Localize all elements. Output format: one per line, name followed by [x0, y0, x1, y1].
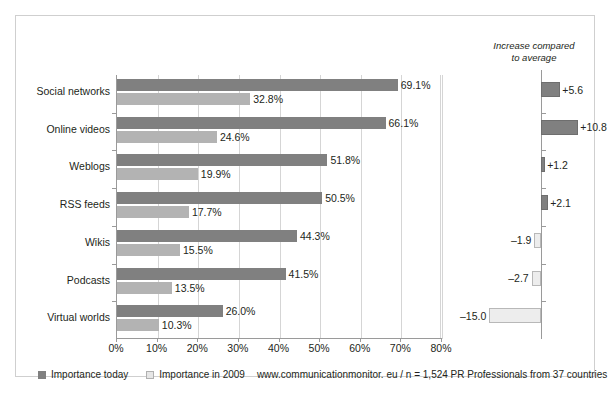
category-row: Social networks69.1%32.8%: [117, 78, 440, 107]
bar-value-label: 69.1%: [401, 80, 431, 91]
bar-value-label: 13.5%: [175, 282, 205, 293]
deviation-separator: [541, 188, 546, 189]
secondary-panel-title: Increase compared to average: [479, 40, 589, 64]
x-axis-tick-mark: [157, 338, 158, 342]
deviation-separator: [541, 226, 546, 227]
bar-value-label: 24.6%: [220, 131, 250, 142]
deviation-bar: +1.2: [541, 157, 545, 172]
category-label: Virtual worlds: [47, 312, 117, 323]
category-separator: [112, 150, 117, 151]
category-label: RSS feeds: [60, 199, 117, 210]
bar-value-label: 26.0%: [226, 306, 256, 317]
bar-value-label: 51.8%: [330, 155, 360, 166]
x-axis-tick-mark: [400, 338, 401, 342]
deviation-bar: –2.7: [532, 271, 541, 286]
bar-previous: 19.9%: [117, 168, 198, 180]
bar-today: 26.0%: [117, 305, 223, 317]
x-axis-tick-mark: [319, 338, 320, 342]
gridline: [442, 75, 443, 339]
legend-swatch-previous: [146, 371, 154, 379]
bar-today: 41.5%: [117, 268, 286, 280]
bar-value-label: 66.1%: [389, 117, 419, 128]
legend-label-today: Importance today: [51, 369, 128, 380]
bar-value-label: 41.5%: [289, 268, 319, 279]
category-label: Social networks: [36, 86, 117, 97]
x-axis-tick-label: 60%: [349, 342, 370, 354]
secondary-panel-title-line2: to average: [479, 52, 589, 64]
bar-today: 66.1%: [117, 117, 386, 129]
deviation-value-label: +1.2: [547, 160, 568, 171]
chart-frame: Increase compared to average Social netw…: [15, 15, 595, 377]
deviation-bar: +5.6: [541, 82, 560, 97]
bar-previous: 24.6%: [117, 131, 217, 143]
deviation-value-label: –15.0: [460, 311, 486, 322]
bar-today: 69.1%: [117, 79, 398, 91]
bar-previous: 32.8%: [117, 93, 250, 105]
x-axis-tick-mark: [441, 338, 442, 342]
x-axis-tick-mark: [238, 338, 239, 342]
deviation-value-label: +2.1: [550, 197, 571, 208]
bar-value-label: 19.9%: [201, 169, 231, 180]
bar-value-label: 15.5%: [183, 245, 213, 256]
deviation-value-label: –1.9: [511, 235, 531, 246]
deviation-separator: [541, 113, 546, 114]
bar-today: 51.8%: [117, 154, 327, 166]
deviation-bar: +10.8: [541, 120, 578, 135]
bar-previous: 15.5%: [117, 244, 180, 256]
x-axis-tick-label: 50%: [309, 342, 330, 354]
category-separator: [112, 301, 117, 302]
x-axis-tick-mark: [116, 338, 117, 342]
chart-figure: Increase compared to average Social netw…: [0, 0, 612, 393]
deviation-separator: [541, 150, 546, 151]
legend-swatch-today: [38, 371, 46, 379]
category-label: Wikis: [85, 237, 117, 248]
deviation-bar: +2.1: [541, 195, 548, 210]
category-label: Online videos: [46, 124, 117, 135]
bar-value-label: 17.7%: [192, 207, 222, 218]
category-separator: [112, 113, 117, 114]
x-axis-tick-label: 70%: [390, 342, 411, 354]
category-row: Weblogs51.8%19.9%: [117, 153, 440, 182]
main-plot-area: Social networks69.1%32.8%Online videos66…: [116, 75, 441, 339]
bar-value-label: 44.3%: [300, 231, 330, 242]
bar-previous: 10.3%: [117, 319, 159, 331]
x-axis-tick-mark: [360, 338, 361, 342]
bar-previous: 13.5%: [117, 282, 172, 294]
deviation-value-label: +10.8: [580, 122, 607, 133]
bar-today: 44.3%: [117, 230, 297, 242]
category-row: Podcasts41.5%13.5%: [117, 267, 440, 296]
x-axis-tick-label: 80%: [430, 342, 451, 354]
category-separator: [112, 188, 117, 189]
category-separator: [112, 264, 117, 265]
bar-previous: 17.7%: [117, 206, 189, 218]
bar-today: 50.5%: [117, 192, 322, 204]
x-axis-tick-mark: [279, 338, 280, 342]
deviation-separator: [541, 301, 546, 302]
secondary-plot-area: +5.6+10.8+1.2+2.1–1.9–2.7–15.0: [456, 75, 596, 339]
source-note: www.communicationmonitor. eu / n = 1,524…: [257, 369, 607, 380]
x-axis-tick-label: 30%: [227, 342, 248, 354]
legend-label-previous: Importance in 2009: [159, 369, 245, 380]
deviation-value-label: +5.6: [562, 84, 583, 95]
x-axis-tick-label: 10%: [146, 342, 167, 354]
bar-value-label: 50.5%: [325, 193, 355, 204]
x-axis-tick-label: 0%: [108, 342, 123, 354]
category-row: Wikis44.3%15.5%: [117, 229, 440, 258]
x-axis-tick-mark: [197, 338, 198, 342]
x-axis-tick-label: 20%: [187, 342, 208, 354]
category-separator: [112, 226, 117, 227]
deviation-bar: –1.9: [534, 233, 541, 248]
deviation-value-label: –2.7: [508, 273, 528, 284]
category-row: Virtual worlds26.0%10.3%: [117, 304, 440, 333]
deviation-separator: [541, 264, 546, 265]
category-row: RSS feeds50.5%17.7%: [117, 191, 440, 220]
bar-value-label: 32.8%: [253, 94, 283, 105]
category-label: Podcasts: [67, 275, 117, 286]
category-label: Weblogs: [69, 161, 117, 172]
x-axis-tick-label: 40%: [268, 342, 289, 354]
deviation-bar: –15.0: [489, 308, 541, 323]
bar-value-label: 10.3%: [162, 320, 192, 331]
secondary-panel-title-line1: Increase compared: [479, 40, 589, 52]
chart-legend: Importance today Importance in 2009 www.…: [38, 369, 607, 380]
category-row: Online videos66.1%24.6%: [117, 116, 440, 145]
